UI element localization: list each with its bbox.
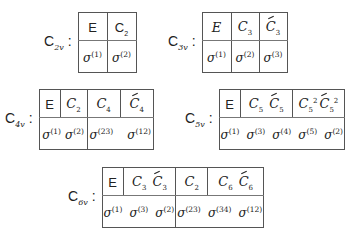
op-c6: C6	[218, 174, 232, 189]
op-c5: C5	[249, 96, 263, 111]
sigma-1: σ(1)	[83, 51, 102, 65]
group-label: C4v :	[5, 110, 33, 129]
op-c3-bar: C3	[152, 174, 166, 189]
sigma-12: σ(12)	[127, 128, 151, 142]
group-c2v: C2v : E C2 σ(1) σ(2)	[44, 12, 137, 73]
class-table-c4v: E C2 C4 C4 σ(1)σ(2) σ(23) σ(12)	[39, 89, 154, 150]
sigma-1: σ(1)	[221, 128, 240, 142]
sigma-4: σ(4)	[272, 128, 291, 142]
sigma-23: σ(23)	[177, 206, 201, 220]
sigma-1: σ(1)	[104, 206, 123, 220]
group-c6v: C6v : E C3C3 C2 C6C6 σ(1) σ(3) σ(2) σ(23…	[68, 167, 264, 228]
sigma-2: σ(2)	[324, 128, 343, 142]
op-c5-bar: C5	[269, 96, 283, 111]
group-c3v: C3v : E C3 C3 σ(1) σ(2) σ(3)	[168, 12, 288, 73]
op-e: E	[88, 20, 97, 35]
sigma-3: σ(3)	[264, 51, 283, 65]
op-c3: C3	[132, 174, 146, 189]
class-table-c3v: E C3 C3 σ(1) σ(2) σ(3)	[202, 12, 288, 73]
sigma-3: σ(3)	[246, 128, 265, 142]
sigma-1: σ(1)	[42, 128, 61, 142]
op-c4: C4	[96, 96, 110, 111]
group-c4v: C4v : E C2 C4 C4 σ(1)σ(2) σ(23) σ(12)	[5, 89, 154, 150]
op-c5-squared: C52	[299, 96, 318, 111]
op-c5-bar-squared: C52	[319, 96, 338, 111]
op-c2: C2	[184, 174, 198, 189]
sigma-3: σ(3)	[129, 206, 148, 220]
op-c2: C2	[66, 96, 80, 111]
sigma-34: σ(34)	[208, 206, 232, 220]
op-e: E	[45, 97, 54, 112]
group-label: C6v :	[68, 188, 96, 207]
op-e: E	[212, 20, 222, 35]
group-c5v: C5v : E C5C5 C52C52 σ(1) σ(3) σ(4) σ(5) …	[185, 89, 345, 150]
group-label: C2v :	[44, 33, 72, 52]
class-table-c6v: E C3C3 C2 C6C6 σ(1) σ(3) σ(2) σ(23) σ(34…	[102, 167, 265, 228]
op-c3: C3	[238, 19, 252, 34]
sigma-2: σ(2)	[155, 206, 174, 220]
sigma-1: σ(1)	[207, 51, 226, 65]
op-c2: C2	[115, 20, 128, 35]
class-table-c2v: E C2 σ(1) σ(2)	[78, 12, 137, 73]
sigma-2: σ(2)	[112, 51, 131, 65]
sigma-5: σ(5)	[298, 128, 317, 142]
op-e: E	[225, 97, 234, 112]
sigma-23: σ(23)	[90, 128, 114, 142]
op-e: E	[108, 175, 117, 190]
class-table-c5v: E C5C5 C52C52 σ(1) σ(3) σ(4) σ(5) σ(2)	[219, 89, 345, 150]
sigma-12: σ(12)	[239, 206, 263, 220]
op-c3-bar: C3	[266, 19, 280, 34]
sigma-2: σ(2)	[236, 51, 255, 65]
group-label: C3v :	[168, 33, 196, 52]
group-label: C5v :	[185, 110, 213, 129]
sigma-2: σ(2)	[65, 128, 84, 142]
op-c6-bar: C6	[239, 174, 253, 189]
op-c4-bar: C4	[130, 96, 144, 111]
